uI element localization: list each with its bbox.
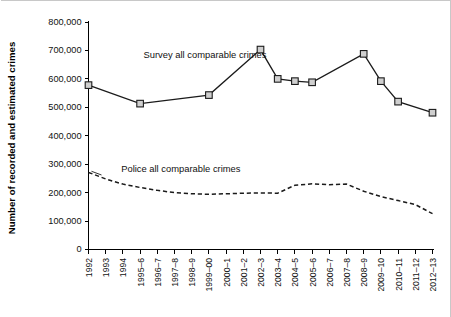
y-axis: 0100,000200,000300,000400,000500,000600,… xyxy=(48,17,88,255)
chart-container: 0100,000200,000300,000400,000500,000600,… xyxy=(0,0,451,317)
x-tick-label: 2010–11 xyxy=(394,258,404,291)
x-tick-label: 1997–8 xyxy=(170,258,180,287)
series-line-police xyxy=(89,172,433,213)
y-tick-label: 700,000 xyxy=(48,45,81,55)
x-tick-label: 1999–00 xyxy=(204,258,214,292)
y-tick-label: 600,000 xyxy=(48,74,81,84)
y-tick-label: 800,000 xyxy=(48,17,81,27)
x-tick-label: 1992 xyxy=(84,258,94,277)
data-point-marker xyxy=(292,78,299,85)
y-axis-title: Number of recorded and estimated crimes xyxy=(6,42,17,234)
y-tick-label: 200,000 xyxy=(48,188,81,198)
x-tick-label: 1996–7 xyxy=(153,258,163,287)
x-tick-label: 2011–12 xyxy=(411,258,421,291)
data-point-marker xyxy=(309,79,316,86)
y-tick-label: 300,000 xyxy=(48,159,81,169)
police-label-leader xyxy=(92,171,102,175)
x-tick-label: 1995–6 xyxy=(136,258,146,287)
x-tick-label: 2005–6 xyxy=(308,258,318,287)
series-label-survey: Survey all comparable crimes xyxy=(144,49,267,60)
y-tick-label: 400,000 xyxy=(48,131,81,141)
x-tick-label: 2006–7 xyxy=(325,258,335,287)
x-tick-label: 1998–9 xyxy=(187,258,197,287)
data-point-marker xyxy=(395,98,402,105)
x-tick-label: 1994 xyxy=(118,258,128,277)
x-tick-label: 2002–3 xyxy=(256,258,266,287)
data-point-marker xyxy=(137,100,144,107)
data-point-marker xyxy=(85,82,92,89)
x-tick-label: 2004–5 xyxy=(290,258,300,287)
x-tick-label: 2012–13 xyxy=(428,258,438,292)
x-tick-label: 2007–8 xyxy=(342,258,352,287)
series-label-police: Police all comparable crimes xyxy=(121,163,241,174)
series-layer xyxy=(85,46,436,213)
x-tick-label: 2008–9 xyxy=(359,258,369,287)
y-tick-label: 500,000 xyxy=(48,102,81,112)
line-chart: 0100,000200,000300,000400,000500,000600,… xyxy=(0,0,451,317)
series-annotations: Survey all comparable crimesPolice all c… xyxy=(92,49,267,175)
x-tick-label: 1993 xyxy=(101,258,111,277)
data-point-marker xyxy=(429,109,436,116)
x-tick-label: 2009–10 xyxy=(376,258,386,292)
y-tick-label: 0 xyxy=(76,244,81,254)
data-point-marker xyxy=(274,76,281,83)
x-tick-label: 2000–1 xyxy=(222,258,232,287)
x-tick-label: 2003–4 xyxy=(273,258,283,287)
y-tick-label: 100,000 xyxy=(48,216,81,226)
x-axis: 1992199319941995–61996–71997–81998–91999… xyxy=(84,250,438,292)
data-point-marker xyxy=(206,92,213,99)
data-point-marker xyxy=(360,51,367,58)
data-point-marker xyxy=(378,78,385,85)
x-tick-label: 2001–2 xyxy=(239,258,249,287)
